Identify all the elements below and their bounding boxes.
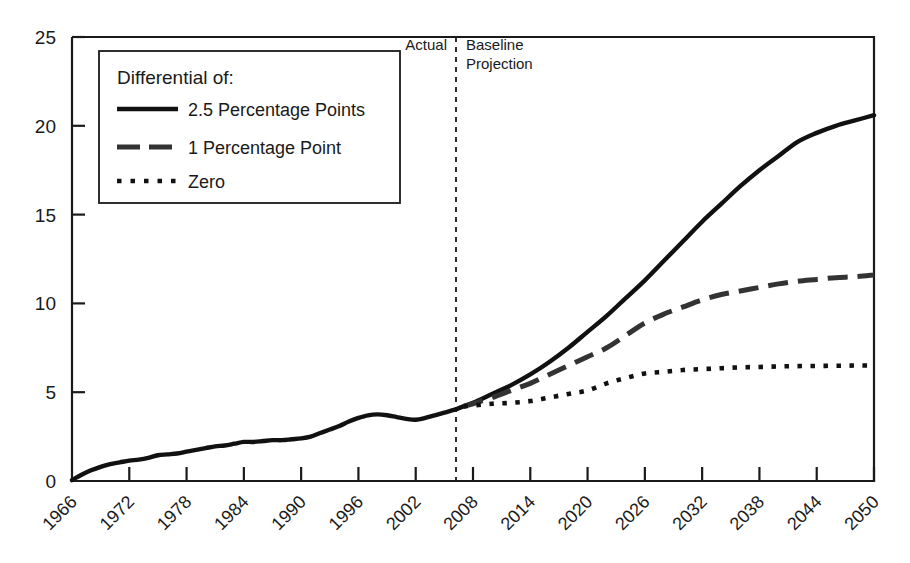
y-axis-tick-label: 0	[45, 471, 56, 492]
y-axis-tick-label: 15	[35, 205, 56, 226]
legend-label-2-5-percentage-points: 2.5 Percentage Points	[188, 100, 365, 120]
y-axis-tick-label: 5	[45, 382, 56, 403]
actual-annotation: Actual	[405, 36, 447, 53]
baseline-projection-annotation-line2: Projection	[466, 55, 533, 72]
legend: Differential of: 2.5 Percentage Points 1…	[99, 51, 400, 203]
legend-title: Differential of:	[117, 67, 234, 88]
y-axis-tick-label: 10	[35, 293, 56, 314]
y-axis-tick-label: 25	[35, 27, 56, 48]
y-axis-tick-label: 20	[35, 116, 56, 137]
chart-container: 0510152025 19661972197819841990199620022…	[0, 0, 910, 563]
legend-label-1-percentage-point: 1 Percentage Point	[188, 138, 341, 158]
legend-label-zero: Zero	[188, 172, 225, 192]
line-chart: 0510152025 19661972197819841990199620022…	[0, 0, 910, 563]
baseline-projection-annotation-line1: Baseline	[466, 36, 524, 53]
